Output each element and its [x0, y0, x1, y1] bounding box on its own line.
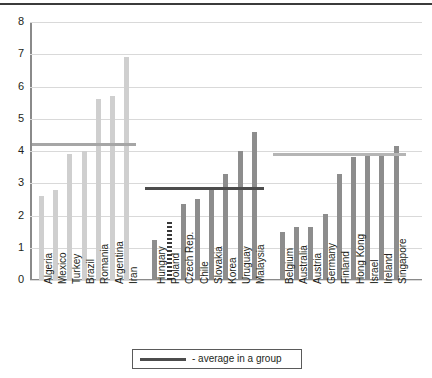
gridline: [30, 119, 422, 120]
x-axis-category-label: Poland: [171, 253, 181, 284]
bar-chart: 012345678 AlgeriaMexicoTurkeyBrazilRoman…: [0, 0, 432, 378]
x-axis-category-label: Chile: [200, 261, 210, 284]
y-axis-tick-label: 3: [2, 177, 24, 188]
gridline: [30, 87, 422, 88]
x-axis-category-label: Argentina: [115, 241, 125, 284]
x-axis-category-label: Austria: [313, 253, 323, 284]
y-axis-tick-label: 4: [2, 145, 24, 156]
x-axis-category-label: Romania: [100, 244, 110, 284]
x-axis-category-label: Mexico: [58, 252, 68, 284]
x-axis-category-label: Algeria: [44, 253, 54, 284]
x-axis-category-label: Brazil: [86, 259, 96, 284]
x-axis-category-label: Belgium: [285, 248, 295, 284]
y-axis-tick-label: 0: [2, 274, 24, 285]
x-axis-category-label: Slovakia: [214, 246, 224, 284]
y-axis-tick-label: 7: [2, 48, 24, 59]
legend-label: - average in a group: [192, 354, 282, 364]
gridline: [30, 54, 422, 55]
x-axis-category-label: Turkey: [72, 254, 82, 284]
x-axis-category-label: Iran: [129, 267, 139, 284]
x-axis-category-label: Germany: [327, 243, 337, 284]
legend-average-line-icon: [140, 358, 186, 361]
legend: - average in a group: [132, 349, 302, 369]
y-axis-tick-label: 8: [2, 16, 24, 27]
gridline: [30, 22, 422, 23]
x-axis-category-label: Korea: [228, 257, 238, 284]
x-axis-category-label: Hungary: [157, 246, 167, 284]
x-axis-category-label: Australia: [299, 245, 309, 284]
x-axis-category-label: Czech Rep.: [185, 232, 195, 284]
average-line: [145, 187, 263, 190]
x-axis-category-label: Malaysia: [256, 245, 266, 284]
x-axis-category-label: Israel: [370, 260, 380, 284]
y-axis-tick-label: 6: [2, 81, 24, 92]
x-axis-category-label: Ireland: [384, 253, 394, 284]
average-line: [32, 143, 136, 146]
x-axis-category-label: Uruguay: [242, 246, 252, 284]
y-axis-tick-label: 1: [2, 242, 24, 253]
average-line: [273, 153, 406, 156]
top-divider-rule: [0, 3, 432, 5]
y-axis-tick-label: 5: [2, 113, 24, 124]
x-axis-category-label: Finland: [341, 251, 351, 284]
y-axis-tick-label: 2: [2, 210, 24, 221]
x-axis-category-label: Singapore: [398, 238, 408, 284]
x-axis-category-label: Hong Kong: [356, 234, 366, 284]
